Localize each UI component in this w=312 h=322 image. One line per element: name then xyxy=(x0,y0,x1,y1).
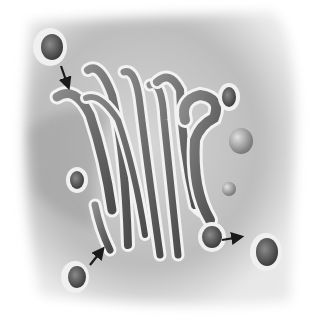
vesicle-left-middle xyxy=(66,167,88,193)
golgi-diagram xyxy=(0,0,312,322)
incoming-vesicle-top-left xyxy=(33,28,67,66)
vesicle-top-right xyxy=(218,83,240,111)
released-vesicle-bottom-right xyxy=(250,233,282,271)
vesicle-right-tiny xyxy=(222,182,236,196)
incoming-vesicle-bottom-left xyxy=(61,261,89,293)
budding-vesicle xyxy=(198,222,226,252)
vesicle-right-small xyxy=(229,128,253,154)
